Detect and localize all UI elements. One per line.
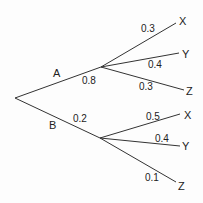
branch-B-probability: 0.2 — [73, 114, 87, 124]
probability-tree-diagram: A 0.8 B 0.2 0.3 X 0.4 Y 0.3 Z 0.5 X 0.4 … — [0, 0, 203, 203]
branch-A-Z-probability: 0.3 — [139, 82, 153, 92]
branch-A-label: A — [53, 68, 60, 78]
branch-A-probability: 0.8 — [82, 76, 96, 86]
branch-A-X-outcome: X — [179, 16, 186, 26]
branch-B-label: B — [49, 120, 56, 130]
branch-A-Y-outcome: Y — [182, 49, 189, 59]
branch-B-Z-probability: 0.1 — [145, 173, 159, 183]
branch-B-line — [15, 98, 100, 138]
tree-lines — [0, 0, 203, 203]
branch-B-Y-probability: 0.4 — [155, 134, 169, 144]
branch-B-X-outcome: X — [184, 110, 191, 120]
branch-A-Y-probability: 0.4 — [148, 60, 162, 70]
branch-A-Z-outcome: Z — [186, 86, 193, 96]
branch-B-Z-outcome: Z — [178, 181, 185, 191]
branch-B-Y-outcome: Y — [182, 141, 189, 151]
branch-B-X-probability: 0.5 — [146, 112, 160, 122]
branch-A-X-probability: 0.3 — [141, 24, 155, 34]
